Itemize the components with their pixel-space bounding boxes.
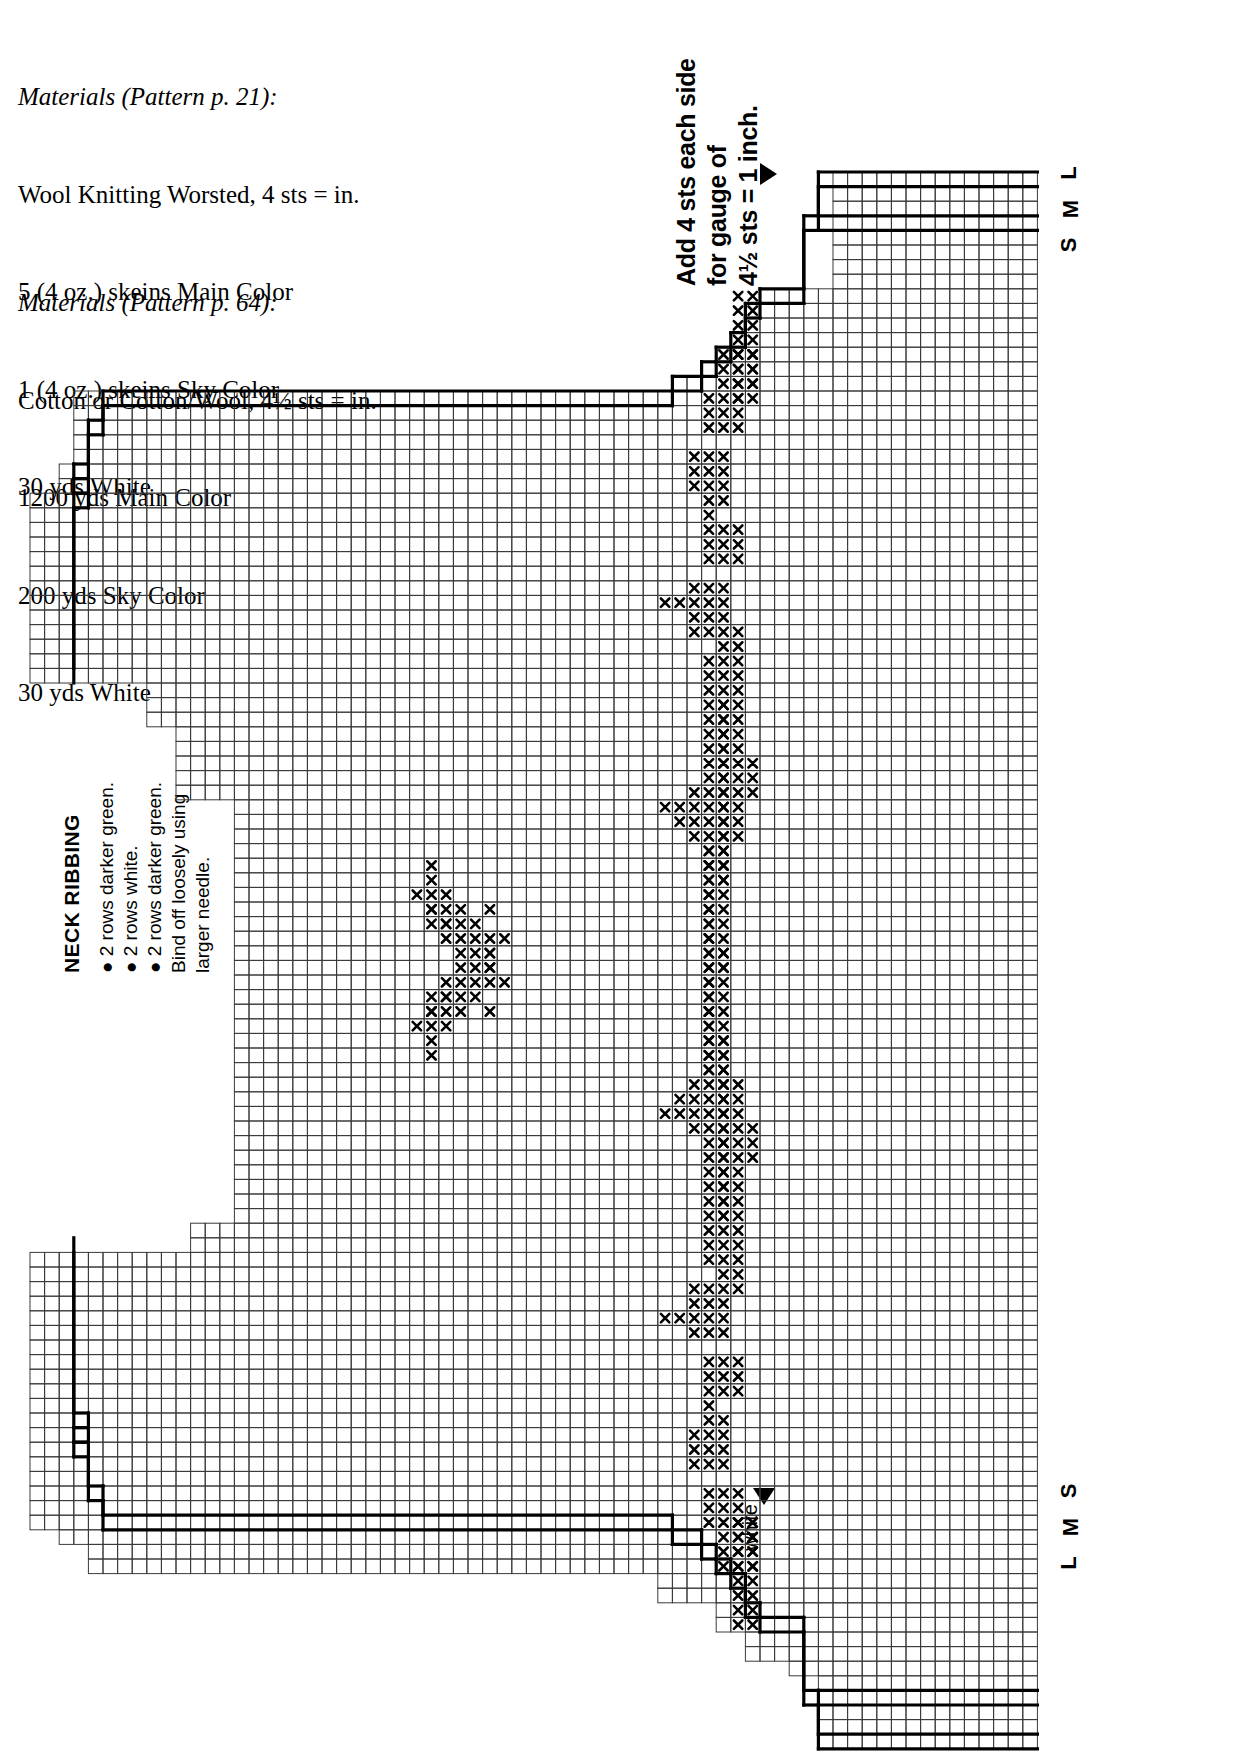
chart-grid-cells xyxy=(30,172,1037,1749)
stitch-chart xyxy=(0,0,1242,1756)
